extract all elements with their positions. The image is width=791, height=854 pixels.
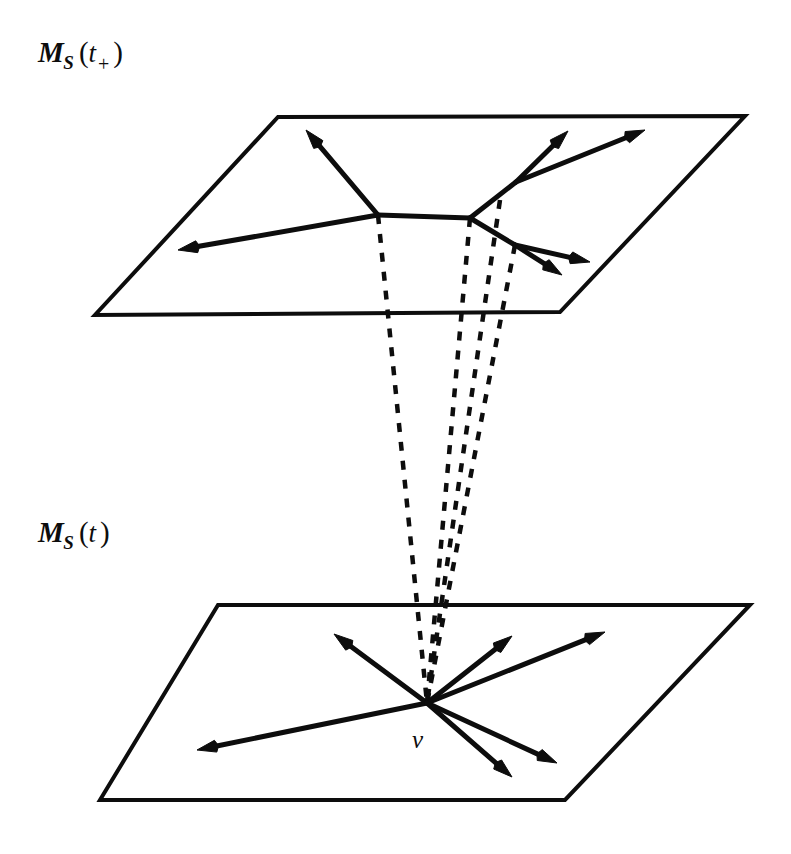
tangent-plane-diagram bbox=[0, 0, 791, 854]
label-vector-v: v bbox=[412, 726, 423, 754]
t-up-near bbox=[516, 131, 568, 182]
t-left bbox=[178, 215, 378, 253]
v-up-right-far bbox=[427, 632, 605, 703]
dash-left bbox=[378, 215, 427, 703]
figure-root: MS(t+) MS(t) v bbox=[0, 0, 791, 854]
v-up-right-near-shaft bbox=[427, 645, 501, 703]
connector-upper bbox=[470, 182, 516, 218]
top-plane-symbol: M bbox=[38, 36, 64, 68]
v-down-right-near-shaft bbox=[427, 703, 501, 768]
branch-connector-group bbox=[378, 182, 516, 245]
vector-arrow-group bbox=[178, 130, 645, 777]
bottom-plane-subscript: S bbox=[63, 532, 74, 553]
bottom-plane-argument: t bbox=[89, 518, 97, 548]
t-down-far-head bbox=[569, 252, 590, 264]
top-plane-open-paren: ( bbox=[75, 36, 89, 68]
v-down-right-near-head bbox=[494, 760, 512, 777]
v-up-right-far-shaft bbox=[427, 637, 592, 703]
connector-horizontal bbox=[378, 215, 470, 218]
top-plane-argument: t bbox=[89, 38, 97, 68]
t-up-far bbox=[516, 130, 645, 182]
bottom-plane-close-paren: ) bbox=[96, 516, 110, 548]
v-down-right-far bbox=[427, 703, 557, 763]
v-up-right-far-head bbox=[585, 632, 605, 645]
v-up-left-head bbox=[334, 634, 353, 650]
v-up-right-near-head bbox=[493, 636, 512, 652]
label-top-plane: MS(t+) bbox=[38, 36, 123, 69]
t-left-shaft bbox=[192, 215, 378, 248]
top-plane-close-paren: ) bbox=[109, 36, 123, 68]
top-plane-argument-subscript: + bbox=[98, 53, 111, 75]
v-down-right-near bbox=[427, 703, 512, 777]
v-left bbox=[197, 703, 427, 752]
top-plane-subscript: S bbox=[63, 52, 74, 73]
t-up-near-head bbox=[550, 131, 568, 149]
bottom-plane-symbol: M bbox=[38, 516, 64, 548]
t-up-left-shaft bbox=[315, 141, 378, 215]
v-left-shaft bbox=[211, 703, 427, 747]
t-down-near-head bbox=[543, 260, 562, 275]
t-left-head bbox=[178, 241, 200, 253]
t-up-left bbox=[306, 130, 378, 215]
v-up-left bbox=[334, 634, 427, 703]
v-left-head bbox=[197, 740, 219, 752]
bottom-plane-open-paren: ( bbox=[75, 516, 89, 548]
dash-right bbox=[427, 218, 470, 703]
v-down-right-far-shaft bbox=[427, 703, 544, 757]
v-down-right-far-head bbox=[537, 750, 557, 763]
t-up-far-head bbox=[625, 130, 645, 143]
label-bottom-plane: MS(t) bbox=[38, 516, 110, 549]
t-up-left-head bbox=[306, 130, 323, 148]
v-up-left-shaft bbox=[345, 642, 427, 703]
projection-line-group bbox=[378, 200, 515, 703]
v-up-right-near bbox=[427, 636, 512, 703]
t-up-far-shaft bbox=[516, 135, 632, 182]
